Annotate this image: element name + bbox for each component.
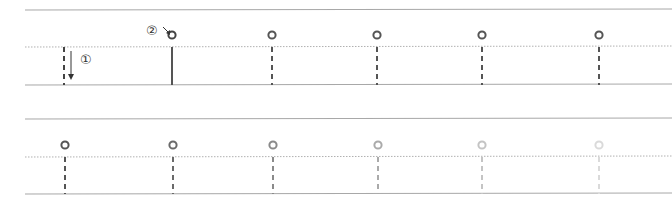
start-point-circle-icon [595, 31, 602, 38]
guide-line-top [25, 9, 672, 10]
start-point-circle-icon [595, 141, 602, 148]
pointer-arrow-icon [163, 27, 168, 32]
guide-line-top [25, 118, 672, 119]
start-point-circle-icon [61, 141, 68, 148]
guide-line-bottom [25, 193, 672, 194]
start-point-circle-icon [374, 141, 381, 148]
start-point-circle-icon [373, 31, 380, 38]
stroke-guide-diagram: ①② [0, 0, 672, 212]
start-point-circle-icon [478, 31, 485, 38]
guide-line-bottom [25, 84, 672, 85]
start-point-circle-icon [269, 141, 276, 148]
start-point-circle-icon [268, 31, 275, 38]
annotation-step-2: ② [146, 23, 158, 38]
start-point-circle-icon [169, 141, 176, 148]
guide-line-dotted [25, 156, 672, 157]
arrowhead-icon [68, 74, 74, 80]
annotation-step-1: ① [80, 52, 92, 67]
guide-line-dotted [25, 46, 672, 47]
start-point-circle-icon [478, 141, 485, 148]
